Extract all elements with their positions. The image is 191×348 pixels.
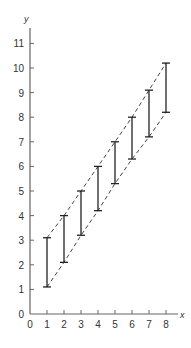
y-tick-label: 5	[18, 186, 24, 197]
x-tick-label: 6	[129, 319, 135, 330]
x-tick-label: 2	[61, 319, 67, 330]
x-tick-label: 4	[95, 319, 101, 330]
interval-chart: yx01234567891011012345678	[0, 0, 191, 348]
x-tick-label: 8	[163, 319, 169, 330]
y-tick-label: 2	[18, 260, 24, 271]
y-tick-label: 11	[14, 38, 25, 49]
y-tick-label: 0	[18, 309, 24, 320]
lower-dashed-line	[47, 112, 166, 287]
x-tick-label: 5	[112, 319, 118, 330]
x-tick-label: 0	[27, 319, 33, 330]
x-tick-label: 1	[44, 319, 50, 330]
y-tick-label: 10	[13, 63, 25, 74]
y-axis-label: y	[23, 14, 29, 24]
upper-dashed-line	[47, 63, 166, 238]
y-tick-label: 6	[18, 161, 24, 172]
x-axis-label: x	[179, 310, 185, 320]
x-tick-label: 3	[78, 319, 84, 330]
y-tick-label: 9	[18, 88, 24, 99]
x-tick-label: 7	[146, 319, 152, 330]
y-tick-label: 3	[18, 235, 24, 246]
y-tick-label: 8	[18, 112, 24, 123]
y-tick-label: 1	[18, 284, 24, 295]
y-tick-label: 4	[18, 211, 24, 222]
y-tick-label: 7	[18, 137, 24, 148]
